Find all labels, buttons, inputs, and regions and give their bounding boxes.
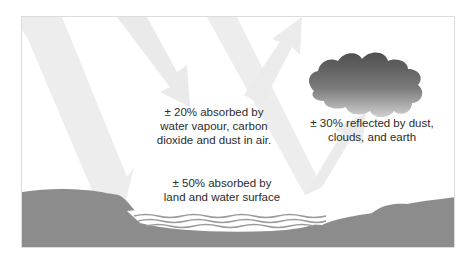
- diagram-frame: ± 20% absorbed by water vapour, carbon d…: [21, 16, 455, 248]
- surface-absorption-label: ± 50% absorbed by land and water surface: [147, 176, 297, 204]
- air-absorption-line-3: dioxide and dust in air.: [139, 133, 289, 147]
- air-absorption-label: ± 20% absorbed by water vapour, carbon d…: [139, 105, 289, 147]
- air-absorption-line-2: water vapour, carbon: [139, 119, 289, 133]
- incoming-arrow-left-icon: [22, 17, 134, 217]
- reflection-label: ± 30% reflected by dust, clouds, and ear…: [297, 116, 447, 144]
- surface-absorption-line-2: land and water surface: [147, 190, 297, 204]
- reflection-line-1: ± 30% reflected by dust,: [297, 116, 447, 130]
- surface-absorption-line-1: ± 50% absorbed by: [147, 176, 297, 190]
- cloud-icon: [309, 52, 422, 117]
- reflection-line-2: clouds, and earth: [297, 130, 447, 144]
- incoming-arrow-middle-icon: [117, 17, 190, 107]
- air-absorption-line-1: ± 20% absorbed by: [139, 105, 289, 119]
